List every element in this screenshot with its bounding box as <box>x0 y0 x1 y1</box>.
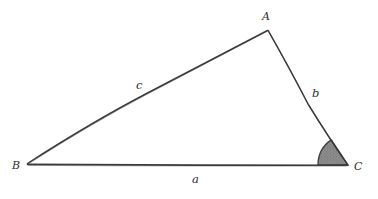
vertex-label-B: B <box>12 160 20 171</box>
side-c-line-overdraw <box>28 31 267 164</box>
vertex-label-C: C <box>354 161 362 172</box>
side-a-line <box>28 164 349 165</box>
diagram-canvas: A B C a b c <box>0 0 378 199</box>
side-label-c: c <box>136 80 142 92</box>
triangle-figure <box>0 0 378 199</box>
vertex-label-A: A <box>262 11 270 22</box>
side-label-b: b <box>312 88 319 100</box>
side-label-a: a <box>192 174 199 186</box>
side-c-line <box>28 31 268 164</box>
